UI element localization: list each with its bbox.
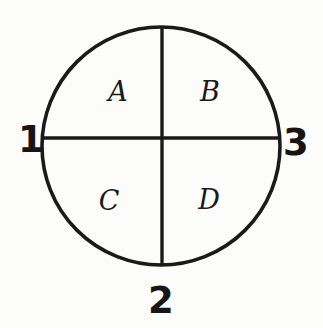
marker-label-3: 3 — [283, 121, 309, 164]
marker-label-2: 2 — [148, 279, 174, 322]
quadrant-label-b: B — [199, 76, 220, 107]
marker-label-1: 1 — [18, 118, 44, 161]
quadrant-label-d: D — [197, 184, 220, 215]
quadrant-label-a: A — [105, 76, 128, 107]
quadrant-circle-diagram: A B C D 1 3 2 — [0, 0, 323, 328]
quadrant-label-c: C — [99, 185, 120, 216]
diagram-canvas: A B C D 1 3 2 — [0, 0, 323, 328]
